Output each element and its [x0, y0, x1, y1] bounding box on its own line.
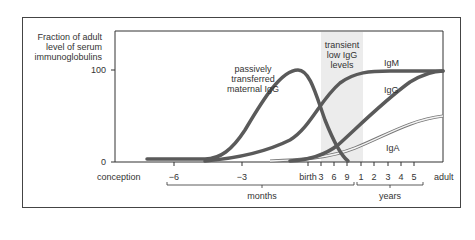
y-label-line1: Fraction of adult — [30, 32, 102, 42]
months-bracket — [167, 182, 354, 188]
x-label-m6: −6 — [164, 172, 184, 182]
maternal-label-line2: transferred — [218, 74, 288, 84]
x-label-1yr: 1 — [355, 172, 367, 182]
transient-low-igg-label: transient low IgG levels — [316, 40, 368, 70]
x-label-9mo: 9 — [341, 172, 353, 182]
years-bracket — [357, 182, 423, 188]
shade-label-line2: low IgG — [316, 50, 368, 60]
x-label-2yr: 2 — [368, 172, 380, 182]
months-label: months — [242, 191, 282, 201]
x-label-m3: −3 — [232, 172, 252, 182]
y-label-line3: immunoglobulins — [30, 52, 102, 62]
y-label-line2: level of serum — [30, 42, 102, 52]
x-label-3yr: 3 — [382, 172, 394, 182]
years-label: years — [372, 191, 408, 201]
maternal-igg-label: passively transferred maternal IgG — [218, 64, 288, 94]
igm-label: IgM — [384, 58, 399, 68]
x-ticks — [174, 162, 414, 166]
iga-label: IgA — [386, 143, 400, 153]
shade-label-line1: transient — [316, 40, 368, 50]
x-label-6mo: 6 — [328, 172, 340, 182]
x-label-adult: adult — [434, 172, 454, 182]
x-label-4yr: 4 — [395, 172, 407, 182]
y-tick-100: 100 — [80, 65, 106, 75]
y-axis-label: Fraction of adult level of serum immunog… — [30, 32, 102, 62]
x-label-5yr: 5 — [408, 172, 420, 182]
igg-label: IgG — [384, 85, 399, 95]
maternal-label-line1: passively — [218, 64, 288, 74]
shade-label-line3: levels — [316, 60, 368, 70]
x-label-conception: conception — [97, 172, 141, 182]
x-label-3mo: 3 — [315, 172, 327, 182]
maternal-label-line3: maternal IgG — [218, 84, 288, 94]
y-tick-0: 0 — [80, 157, 106, 167]
